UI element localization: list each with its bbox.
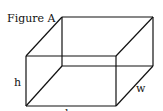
figure-title: Figure A	[7, 12, 57, 25]
length-label: l	[65, 107, 69, 111]
cuboid-diagram: Figure A h w l	[0, 0, 163, 111]
height-label: h	[14, 76, 21, 89]
cuboid-edges	[26, 17, 153, 106]
width-label: w	[136, 82, 146, 95]
connector-bottom-right	[116, 66, 153, 106]
connector-bottom-left	[26, 66, 62, 106]
connector-top-right	[116, 17, 153, 56]
